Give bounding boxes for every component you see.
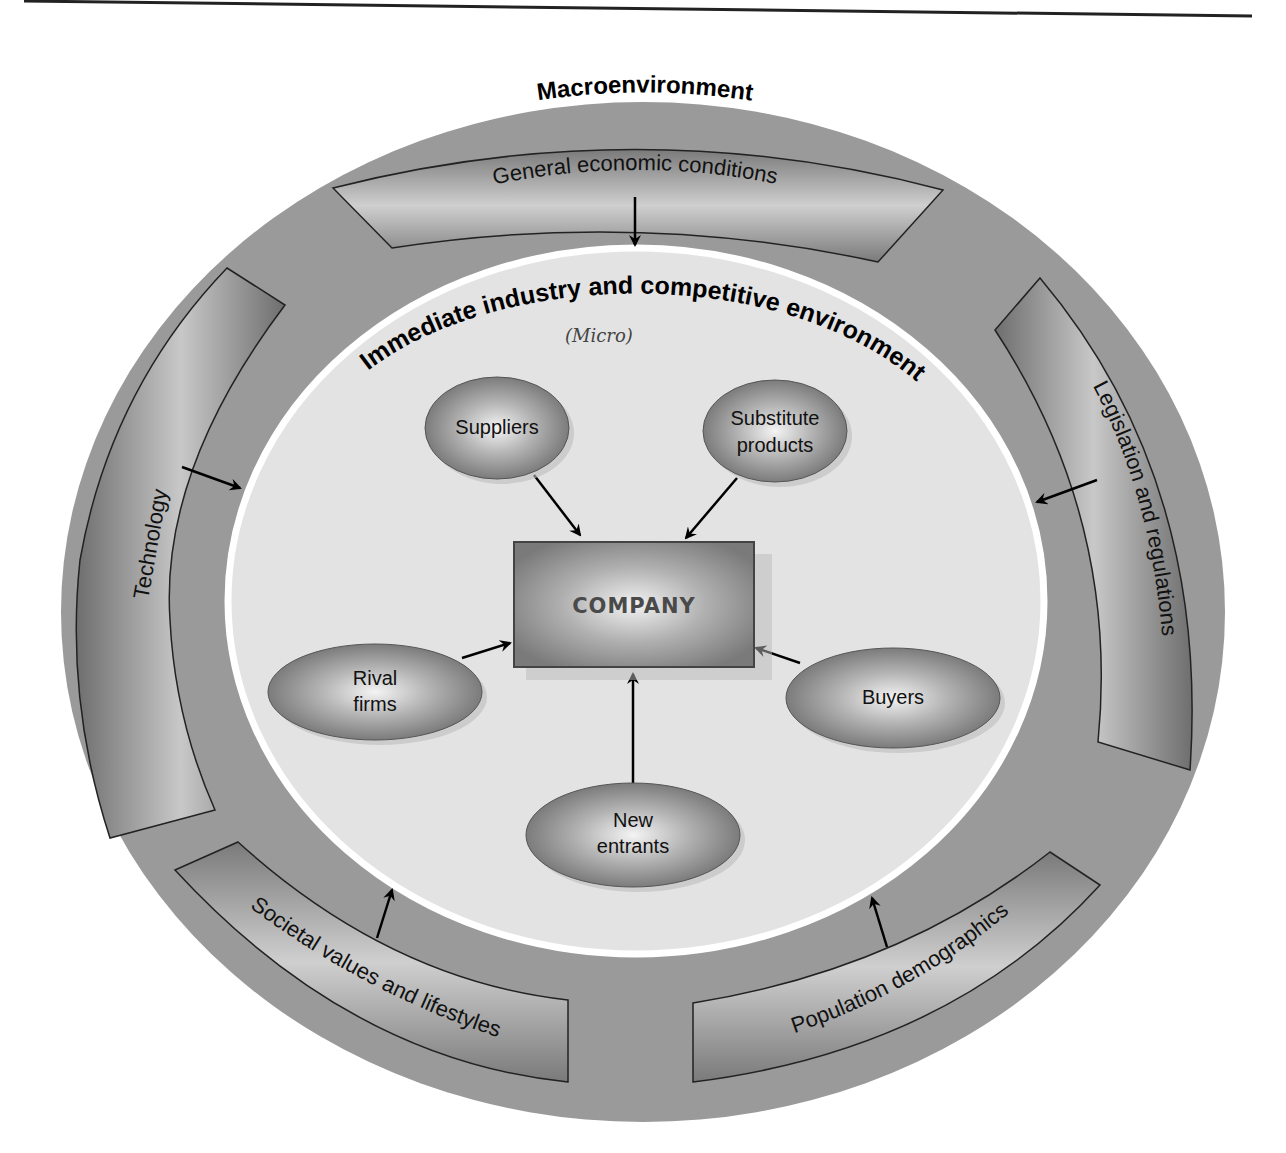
node-buyers-label: Buyers	[862, 686, 924, 708]
macroenvironment-diagram: Macroenvironment General economic condit…	[0, 0, 1286, 1153]
company-label: COMPANY	[572, 594, 696, 618]
node-substitutes	[703, 380, 847, 482]
node-substitutes-label-1: Substitute	[731, 407, 820, 429]
handwritten-note: (Micro)	[565, 325, 633, 346]
node-new-entrants-label-1: New	[613, 809, 654, 831]
top-rule	[24, 1, 1252, 16]
node-suppliers-label: Suppliers	[455, 416, 538, 438]
node-rivals	[268, 644, 482, 740]
node-substitutes-label-2: products	[737, 434, 814, 456]
macroenvironment-title: Macroenvironment	[535, 70, 755, 105]
node-rivals-label-2: firms	[353, 693, 396, 715]
node-rivals-label-1: Rival	[353, 667, 397, 689]
node-new-entrants-label-2: entrants	[597, 835, 669, 857]
